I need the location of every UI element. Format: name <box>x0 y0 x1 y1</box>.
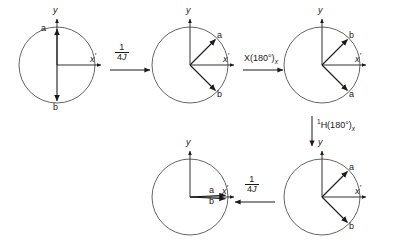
arrow-4-label: 1 4J <box>245 175 259 195</box>
circle-3-x-axis-label: x′ <box>355 52 361 64</box>
arrow-2-label: X(180°)x <box>244 54 278 65</box>
circle-5-x-axis-label: x′ <box>222 184 228 196</box>
arrow-4-denominator: 4J <box>245 184 259 194</box>
circle-2-x-axis-label: x′ <box>223 52 229 64</box>
circle-3-vector-b-label: b <box>349 31 354 40</box>
circle-2-vector-b-label: b <box>217 90 222 99</box>
circle-4-vector-b <box>322 197 348 223</box>
circle-4-vector-a <box>322 172 348 198</box>
circle-5-vector-a-label: a <box>209 186 214 195</box>
circle-4-y-axis-label: y <box>318 138 323 147</box>
circle-2-vector-a <box>190 40 216 66</box>
circle-1-group <box>19 19 101 103</box>
circle-3-y-axis-label: y <box>318 6 323 15</box>
arrow-1-numerator: 1 <box>115 43 129 52</box>
circle-2-y-axis-label: y <box>186 6 191 15</box>
circle-1-vector-a-label: a <box>41 24 46 33</box>
circle-3-vector-a <box>322 65 348 91</box>
circle-2-vector-a-label: a <box>217 31 222 40</box>
circle-2-vector-b <box>190 65 216 91</box>
circle-1-y-axis-label: y <box>53 6 58 15</box>
circle-4-x-axis-label: x′ <box>355 184 361 196</box>
arrow-1-denominator: 4J <box>115 52 129 62</box>
arrow-1-label: 1 4J <box>115 43 129 63</box>
circle-5-y-axis-label: y <box>186 138 191 147</box>
circle-3-vector-a-label: a <box>349 90 354 99</box>
circle-4-vector-a-label: a <box>349 163 354 172</box>
arrow-4-numerator: 1 <box>245 175 259 184</box>
circle-1-x-axis-label: x′ <box>90 52 96 64</box>
arrow-3-label: 1H(180°)x <box>317 119 355 132</box>
circle-3-vector-b <box>322 40 348 66</box>
circle-4-vector-b-label: b <box>349 222 354 231</box>
circle-1-vector-b-label: b <box>53 103 58 112</box>
circle-5-vector-b-label: b <box>209 197 214 206</box>
figure-canvas: y a b x′ 1 4J y a b x′ X(180°)x y b a x′… <box>0 0 398 250</box>
